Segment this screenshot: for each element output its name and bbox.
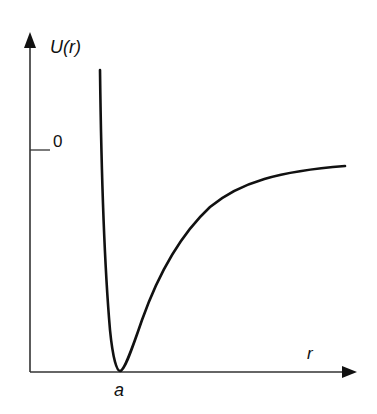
potential-energy-chart [0,0,377,414]
y-axis-label: U(r) [50,38,81,56]
x-axis-arrow-icon [342,366,357,378]
zero-label: 0 [53,133,62,150]
y-axis-arrow-icon [24,32,36,48]
potential-curve [100,70,345,371]
minimum-position-label: a [114,381,124,399]
x-axis-label: r [307,345,313,362]
